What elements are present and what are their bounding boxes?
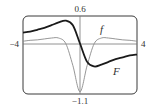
x-min-label: −4 bbox=[9, 39, 19, 49]
y-max-label: 0.6 bbox=[74, 4, 86, 14]
curve-label-f: f bbox=[100, 23, 105, 35]
curve-label-F: F bbox=[112, 65, 120, 77]
x-max-label: 4 bbox=[141, 39, 146, 49]
function-graph: 0.6 −1.1 −4 4 f F bbox=[0, 0, 152, 112]
y-min-label: −1.1 bbox=[72, 96, 88, 106]
